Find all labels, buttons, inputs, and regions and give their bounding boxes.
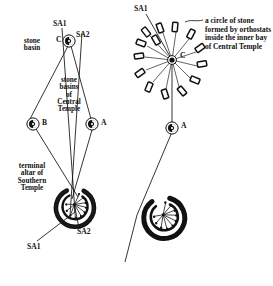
left-marker-a: [86, 118, 98, 130]
figure-container: SA1 SA2 C stone basin B A stone basins o…: [0, 0, 273, 286]
left-label-sa2-top: SA2: [76, 31, 90, 39]
right-marker-c: [168, 56, 177, 65]
left-label-sa1-bottom: SA1: [27, 243, 41, 251]
right-label-point-a: A: [181, 122, 186, 130]
right-sa1-sightline-lower: [137, 132, 172, 215]
right-sa1-sightline-tail: [125, 215, 137, 262]
right-marker-a: [166, 122, 178, 134]
left-sa2-sightline: [70, 33, 82, 216]
right-panel-group: [125, 14, 207, 262]
left-label-sa2-bottom: SA2: [77, 228, 91, 236]
right-terminal-altar-structure: [136, 190, 192, 246]
left-label-terminal-altar: terminal altar of Southern Temple: [8, 163, 56, 192]
left-label-point-b: B: [42, 119, 47, 127]
right-annotation-orthostat-circle: a circle of stone formed by orthostats i…: [205, 17, 273, 51]
left-label-point-a: A: [101, 119, 106, 127]
right-label-sa1-top: SA1: [134, 5, 148, 13]
annotation-leader-line: [185, 20, 203, 22]
left-marker-c: [63, 35, 75, 47]
left-label-stone-basins-central-temple: stone basins of Central Temple: [48, 77, 90, 114]
right-label-point-c: C: [180, 52, 185, 60]
left-label-point-c: C: [56, 36, 61, 44]
left-label-stone-basin: stone basin: [14, 38, 50, 53]
right-sa1-sightline-upper: [146, 14, 172, 60]
left-sa1-sightline: [62, 28, 75, 212]
left-marker-b: [27, 118, 39, 130]
left-panel-group: [27, 28, 99, 241]
left-label-sa1-top: SA1: [53, 20, 67, 28]
